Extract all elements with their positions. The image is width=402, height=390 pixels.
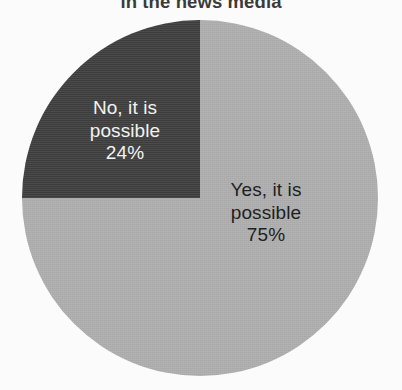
pie-label-yes-value: 75% — [196, 224, 336, 247]
pie-label-yes-line1: Yes, it is — [196, 179, 336, 202]
pie-label-no: No, it is possible 24% — [55, 97, 195, 165]
pie-label-yes: Yes, it is possible 75% — [196, 179, 336, 247]
pie-label-no-value: 24% — [55, 142, 195, 165]
chart-title: in the news media — [0, 0, 402, 13]
chart-title-clip: in the news media — [0, 0, 402, 14]
pie-chart-figure: in the news media No, it is possible 24%… — [0, 0, 402, 390]
pie-label-no-line2: possible — [55, 120, 195, 143]
pie-label-no-line1: No, it is — [55, 97, 195, 120]
pie-label-yes-line2: possible — [196, 202, 336, 225]
